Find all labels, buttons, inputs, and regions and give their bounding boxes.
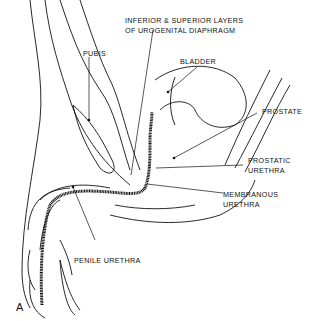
label-urogenital-diaphragm-line1: INFERIOR & SUPERIOR LAYERS — [125, 17, 243, 25]
label-prostatic-urethra-line2: URETHRA — [248, 167, 285, 175]
anatomy-diagram: INFERIOR & SUPERIOR LAYERS OF UROGENITAL… — [0, 0, 321, 321]
label-penile-urethra: PENILE URETHRA — [74, 257, 141, 265]
label-membranous-urethra-line1: MEMBRANOUS — [223, 191, 278, 199]
label-prostate: PROSTATE — [262, 108, 302, 116]
panel-letter: A — [16, 301, 23, 313]
label-membranous-urethra-line2: URETHRA — [223, 201, 260, 209]
label-bladder: BLADDER — [180, 58, 216, 66]
label-pubis: PUBIS — [83, 50, 106, 58]
label-prostatic-urethra-line1: PROSTATIC — [248, 157, 291, 165]
label-urogenital-diaphragm-line2: OF UROGENITAL DIAPHRAGM — [125, 27, 235, 35]
